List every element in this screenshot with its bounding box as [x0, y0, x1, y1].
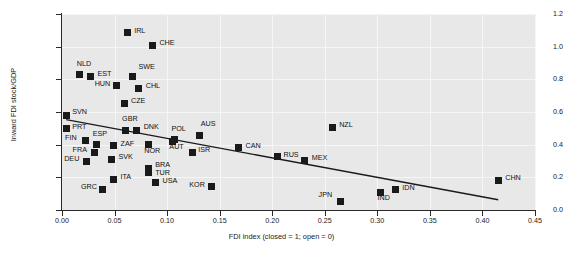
- data-point-label: ITA: [121, 173, 132, 181]
- y-axis-tick: [56, 210, 61, 211]
- data-point-marker: [135, 85, 142, 92]
- y-axis-label: Inward FDI stock/GDP: [9, 30, 18, 180]
- data-point-marker: [87, 73, 94, 80]
- data-point-label: IDN: [402, 184, 414, 192]
- gridline-horizontal: [62, 177, 535, 178]
- data-point-label: IRL: [134, 27, 145, 35]
- y-axis-tick: [56, 47, 61, 48]
- data-point-marker: [129, 73, 136, 80]
- data-point-label: NOR: [144, 147, 160, 155]
- data-point-marker: [189, 149, 196, 156]
- gridline-horizontal: [62, 14, 535, 15]
- data-point-marker: [91, 149, 98, 156]
- y-axis-tick: [56, 79, 61, 80]
- data-point-label: NZL: [339, 121, 353, 129]
- data-point-marker: [235, 144, 242, 151]
- data-point-label: CHL: [146, 82, 160, 90]
- data-point-marker: [63, 125, 70, 132]
- x-axis-tick-label: 0.05: [93, 217, 137, 225]
- plot-area: [62, 14, 535, 210]
- data-point-marker: [149, 42, 156, 49]
- gridline-horizontal: [62, 47, 535, 48]
- data-point-label: ISR: [198, 146, 210, 154]
- data-point-marker: [208, 183, 215, 190]
- y-axis-tick-label: 1.2: [511, 10, 563, 18]
- data-point-label: SWE: [138, 63, 154, 71]
- data-point-label: FRA: [73, 146, 87, 154]
- data-point-label: AUT: [169, 143, 183, 151]
- data-point-marker: [122, 127, 129, 134]
- data-point-label: EST: [97, 70, 111, 78]
- data-point-marker: [110, 176, 117, 183]
- data-point-label: CHE: [159, 39, 174, 47]
- x-axis-tick-label: 0.30: [355, 217, 399, 225]
- data-point-marker: [145, 169, 152, 176]
- data-point-marker: [495, 177, 502, 184]
- data-point-label: CAN: [246, 142, 261, 150]
- y-axis-tick: [56, 145, 61, 146]
- data-point-marker: [152, 179, 159, 186]
- data-point-marker: [133, 127, 140, 134]
- data-point-marker: [274, 153, 281, 160]
- data-point-label: KOR: [189, 181, 205, 189]
- x-axis-tick-label: 0.15: [198, 217, 242, 225]
- x-axis-tick-label: 0.10: [145, 217, 189, 225]
- data-point-marker: [113, 82, 120, 89]
- data-point-label: JPN: [319, 191, 333, 199]
- data-point-label: CHN: [505, 174, 521, 182]
- data-point-marker: [63, 112, 70, 119]
- x-axis-tick-label: 0.20: [250, 217, 294, 225]
- data-point-marker: [196, 132, 203, 139]
- data-point-marker: [93, 141, 100, 148]
- data-point-label: DEU: [64, 155, 79, 163]
- data-point-marker: [124, 29, 131, 36]
- data-point-label: ESP: [93, 130, 107, 138]
- data-point-label: PRT: [72, 123, 86, 131]
- data-point-label: POL: [171, 125, 185, 133]
- data-point-marker: [83, 158, 90, 165]
- data-point-label: IND: [377, 194, 389, 202]
- data-point-label: USA: [163, 177, 178, 185]
- data-point-label: GRC: [81, 183, 97, 191]
- data-point-marker: [301, 157, 308, 164]
- data-point-label: ZAF: [121, 140, 135, 148]
- gridline-horizontal: [62, 112, 535, 113]
- data-point-label: SVK: [118, 153, 132, 161]
- data-point-marker: [99, 186, 106, 193]
- data-point-label: DNK: [144, 123, 159, 131]
- data-point-marker: [121, 100, 128, 107]
- data-point-marker: [108, 156, 115, 163]
- data-point-marker: [392, 186, 399, 193]
- x-axis-tick-label: 0.45: [513, 217, 557, 225]
- data-point-label: NLD: [77, 60, 91, 68]
- x-axis-spine: [61, 210, 536, 211]
- x-axis-tick-label: 0.00: [40, 217, 84, 225]
- y-axis-tick-label: 0.6: [511, 108, 563, 116]
- data-point-label: SVN: [72, 108, 87, 116]
- y-axis-tick-label: 0.8: [511, 75, 563, 83]
- y-axis-tick: [56, 112, 61, 113]
- y-axis-tick-label: 1.0: [511, 43, 563, 51]
- x-axis-label: FDI index (closed = 1; open = 0): [0, 232, 563, 241]
- data-point-label: AUS: [201, 120, 216, 128]
- y-axis-tick-label: 0.4: [511, 141, 563, 149]
- y-axis-tick-label: 0.0: [511, 206, 563, 214]
- data-point-label: GBR: [122, 115, 138, 123]
- data-point-marker: [110, 142, 117, 149]
- x-axis-tick-label: 0.25: [303, 217, 347, 225]
- data-point-label: RUS: [283, 151, 298, 159]
- data-point-label: FIN: [65, 134, 77, 142]
- y-axis-tick: [56, 14, 61, 15]
- x-axis-tick-label: 0.40: [460, 217, 504, 225]
- y-axis-tick: [56, 177, 61, 178]
- x-axis-tick-label: 0.35: [408, 217, 452, 225]
- data-point-label: CZE: [131, 97, 145, 105]
- data-point-marker: [329, 124, 336, 131]
- data-point-label: MEX: [312, 154, 328, 162]
- data-point-marker: [76, 71, 83, 78]
- scatter-chart-figure: Inward FDI stock/GDP FDI index (closed =…: [0, 0, 563, 257]
- data-point-marker: [82, 137, 89, 144]
- data-point-label: HUN: [95, 80, 111, 88]
- data-point-marker: [337, 198, 344, 205]
